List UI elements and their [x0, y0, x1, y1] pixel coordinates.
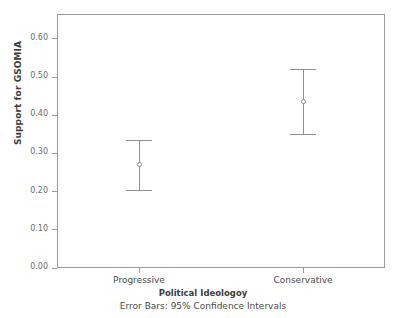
- plot-area: [57, 14, 385, 268]
- error-bar-chart: Support for GSOMIA 0.000.100.200.300.400…: [0, 0, 406, 318]
- x-tick-label: Conservative: [243, 275, 363, 285]
- y-tick-mark: [52, 38, 57, 39]
- y-tick-mark: [52, 115, 57, 116]
- x-tick-mark: [139, 268, 140, 273]
- y-tick-label: 0.00: [0, 262, 48, 271]
- x-tick-label: Progressive: [79, 275, 199, 285]
- y-tick-label: 0.10: [0, 224, 48, 233]
- y-tick-label: 0.20: [0, 186, 48, 195]
- error-bar-lower-cap: [290, 134, 316, 135]
- error-bar-lower-cap: [126, 190, 152, 191]
- y-tick-label: 0.60: [0, 33, 48, 42]
- x-tick-mark: [303, 268, 304, 273]
- y-tick-label: 0.40: [0, 109, 48, 118]
- y-tick-label: 0.30: [0, 147, 48, 156]
- mean-marker: [137, 162, 142, 167]
- x-axis-title: Political Ideologoy: [0, 288, 406, 298]
- error-bar-upper-cap: [126, 140, 152, 141]
- chart-footnote: Error Bars: 95% Confidence Intervals: [0, 301, 406, 311]
- y-tick-label: 0.50: [0, 71, 48, 80]
- y-tick-mark: [52, 153, 57, 154]
- y-tick-mark: [52, 229, 57, 230]
- y-tick-mark: [52, 268, 57, 269]
- y-tick-mark: [52, 191, 57, 192]
- error-bar-upper-cap: [290, 69, 316, 70]
- mean-marker: [301, 99, 306, 104]
- y-tick-mark: [52, 77, 57, 78]
